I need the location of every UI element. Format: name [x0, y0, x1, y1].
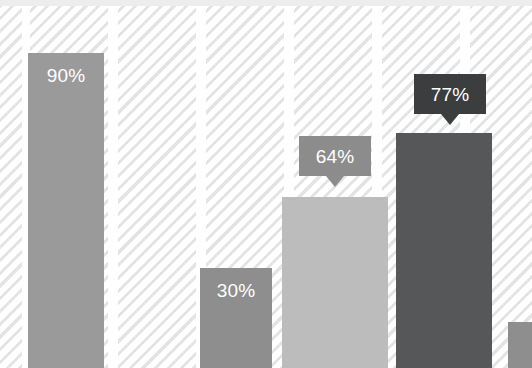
- tooltip-77: 77%: [414, 74, 486, 114]
- bar-3[interactable]: [282, 197, 388, 368]
- bar-5[interactable]: [508, 322, 532, 368]
- bar-1-value-label: 90%: [28, 66, 104, 85]
- tooltip-77-pointer-icon: [441, 114, 459, 125]
- bar-2[interactable]: 30%: [200, 268, 272, 368]
- bars-container: 90%30%: [0, 0, 532, 368]
- tooltip-64: 64%: [299, 136, 371, 176]
- bar-1[interactable]: 90%: [28, 53, 104, 368]
- bar-chart: 90%30% 64%77%: [0, 0, 532, 368]
- bar-4[interactable]: [396, 133, 492, 368]
- bar-2-value-label: 30%: [200, 281, 272, 300]
- tooltip-64-pointer-icon: [326, 176, 344, 187]
